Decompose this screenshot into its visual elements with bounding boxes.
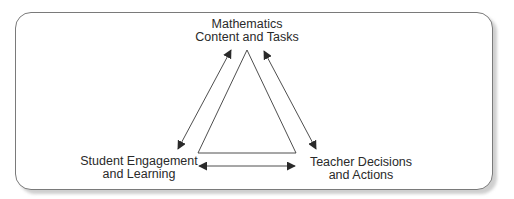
node-label-line: Content and Tasks (187, 31, 307, 44)
node-teacher-decisions: Teacher Decisions and Actions (296, 156, 426, 182)
node-label-line: and Learning (74, 168, 204, 181)
node-student-engagement: Student Engagement and Learning (74, 155, 204, 181)
central-triangle (198, 50, 296, 153)
arrow-math-teacher (264, 51, 316, 149)
node-label-line: and Actions (296, 169, 426, 182)
node-mathematics-content: Mathematics Content and Tasks (187, 18, 307, 44)
